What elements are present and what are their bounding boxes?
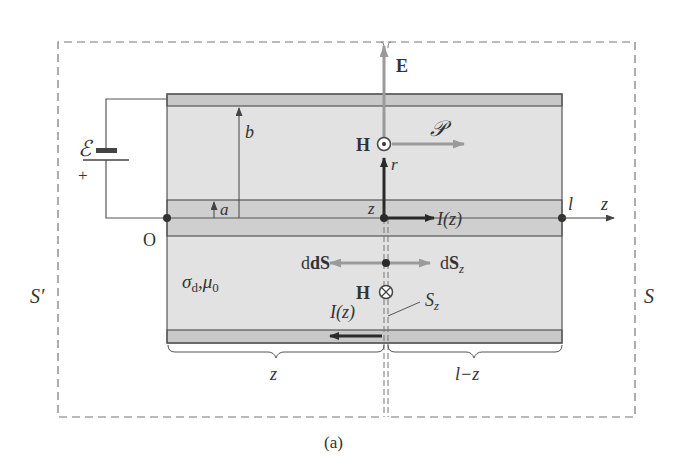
battery-plus-label: + — [78, 166, 88, 185]
surface-s-label: S — [644, 285, 654, 307]
z-axis-label: z — [600, 194, 608, 214]
coaxial-cable-diagram: ℰ + b a O E H 𝒫 r z I(z) l z ddS dSz H S… — [0, 0, 677, 476]
current-forward-label: I(z) — [436, 209, 462, 230]
origin-label: O — [143, 230, 156, 250]
magnetic-field-bottom-label: H — [356, 283, 370, 303]
origin-point — [163, 214, 171, 222]
current-return-label: I(z) — [329, 302, 355, 323]
length-l-label: l — [568, 194, 573, 214]
coax-body — [167, 94, 562, 344]
radius-a-label: a — [220, 200, 229, 219]
surface-s-prime-label: S′ — [30, 285, 45, 307]
radius-b-label: b — [245, 122, 254, 142]
magnetic-field-top-label: H — [356, 135, 370, 155]
figure-caption: (a) — [324, 433, 343, 452]
outer-conductor-top — [167, 94, 562, 106]
electric-field-label: E — [396, 56, 408, 76]
radial-r-label: r — [391, 155, 398, 174]
brace-left-label: z — [269, 364, 277, 384]
emf-label: ℰ — [78, 136, 94, 161]
battery-circuit — [83, 99, 167, 218]
battery-negative-plate — [96, 148, 117, 153]
point-z-label: z — [367, 199, 375, 218]
brace-left — [168, 345, 384, 358]
brace-right — [388, 345, 562, 358]
dS-label: ddS — [301, 253, 330, 273]
brace-right-label: l−z — [455, 364, 479, 384]
